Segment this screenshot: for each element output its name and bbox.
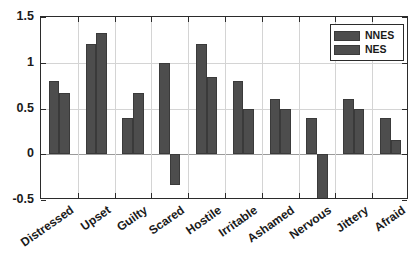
- x-tick-label-guilty: Guilty: [114, 203, 150, 234]
- x-tick-mark: [372, 17, 373, 22]
- bar-afraid-nes: [391, 140, 402, 155]
- bar-ashamed-nnes: [270, 99, 281, 154]
- y-tick-mark: [41, 154, 46, 155]
- y-tick-label: 1.5: [0, 9, 34, 23]
- x-tick-mark: [225, 17, 226, 22]
- bar-scared-nnes: [159, 63, 170, 155]
- x-tick-mark: [78, 193, 79, 198]
- gridline-vertical: [299, 17, 300, 198]
- y-tick-label: 1: [0, 55, 34, 69]
- gridline-vertical: [262, 17, 263, 198]
- x-tick-mark: [115, 17, 116, 22]
- bar-ashamed-nes: [280, 109, 291, 154]
- bar-guilty-nes: [133, 93, 144, 154]
- bar-guilty-nnes: [122, 118, 133, 155]
- gridline-vertical: [151, 17, 152, 198]
- bar-irritable-nes: [243, 109, 254, 154]
- x-tick-mark: [188, 17, 189, 22]
- y-tick-mark: [41, 63, 46, 64]
- x-tick-mark: [372, 193, 373, 198]
- bar-nervous-nnes: [306, 118, 317, 155]
- bar-distressed-nnes: [49, 81, 60, 154]
- y-tick-mark: [41, 109, 46, 110]
- x-tick-label-upset: Upset: [78, 203, 113, 233]
- x-tick-label-distressed: Distressed: [18, 203, 76, 249]
- y-tick-mark: [402, 17, 407, 18]
- gridline-vertical: [115, 17, 116, 198]
- bar-jittery-nnes: [343, 99, 354, 154]
- y-tick-label: 0.5: [0, 101, 34, 115]
- x-tick-mark: [78, 17, 79, 22]
- gridline-vertical: [188, 17, 189, 198]
- bar-nervous-nes: [317, 154, 328, 198]
- x-tick-mark: [188, 193, 189, 198]
- x-tick-mark: [335, 17, 336, 22]
- y-tick-mark: [402, 154, 407, 155]
- legend-label-nes: NES: [365, 44, 387, 55]
- x-tick-mark: [262, 17, 263, 22]
- bar-irritable-nnes: [233, 81, 244, 154]
- bar-afraid-nnes: [380, 118, 391, 155]
- bar-hostile-nes: [207, 77, 218, 154]
- legend-swatch-nnes: [334, 31, 360, 41]
- x-tick-mark: [115, 193, 116, 198]
- x-tick-label-hostile: Hostile: [183, 203, 224, 237]
- y-tick-mark: [41, 17, 46, 18]
- x-tick-mark: [335, 193, 336, 198]
- gridline-vertical: [78, 17, 79, 198]
- x-tick-label-scared: Scared: [146, 203, 187, 237]
- bar-upset-nnes: [86, 44, 97, 154]
- bar-hostile-nnes: [196, 44, 207, 154]
- bar-chart-figure: 1.510.50-0.5 DistressedUpsetGuiltyScared…: [0, 0, 417, 258]
- x-tick-mark: [299, 17, 300, 22]
- legend-label-nnes: NNES: [365, 30, 394, 41]
- x-tick-mark: [225, 193, 226, 198]
- y-tick-label: 0: [0, 146, 34, 160]
- x-tick-label-afraid: Afraid: [371, 203, 408, 235]
- x-axis-tick-labels: DistressedUpsetGuiltyScaredHostileIrrita…: [0, 199, 417, 258]
- bar-scared-nes: [170, 154, 181, 185]
- x-tick-mark: [151, 193, 152, 198]
- y-tick-mark: [402, 109, 407, 110]
- legend-item-nes: NES: [334, 43, 399, 56]
- legend-item-nnes: NNES: [334, 29, 399, 42]
- x-tick-mark: [151, 17, 152, 22]
- x-tick-mark: [299, 193, 300, 198]
- gridline-vertical: [225, 17, 226, 198]
- x-tick-label-jittery: Jittery: [333, 203, 371, 235]
- bar-upset-nes: [96, 33, 107, 155]
- legend-swatch-nes: [334, 45, 360, 55]
- bar-distressed-nes: [59, 93, 70, 154]
- bar-jittery-nes: [354, 109, 365, 154]
- y-tick-mark: [402, 63, 407, 64]
- x-tick-mark: [262, 193, 263, 198]
- zero-line: [41, 154, 407, 155]
- chart-legend: NNES NES: [330, 24, 404, 61]
